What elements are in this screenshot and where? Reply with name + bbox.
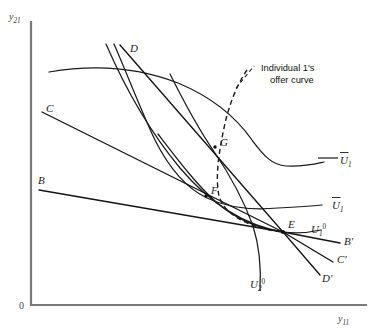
x-axis-label: y11 <box>337 313 349 327</box>
budget-ray-C <box>42 112 283 232</box>
label-group-ubar1: U1 <box>318 153 352 169</box>
ray-label-D-prime: D' <box>321 272 333 284</box>
offer-curve-annotation-line2: offer curve <box>270 75 314 85</box>
point-label-G: G <box>220 136 228 148</box>
point-label-E: E <box>287 218 295 230</box>
offer-curve-figure: y21 y11 0 B C D B' C' D' E F G U1 U1 U10… <box>0 0 373 330</box>
label-u2-zero: U20 <box>250 278 266 293</box>
ray-label-C-prime: C' <box>337 253 347 265</box>
point-marker-F <box>204 194 207 197</box>
point-marker-G <box>213 145 216 148</box>
y-axis-label: y21 <box>8 11 21 25</box>
budget-ray-B <box>39 190 283 232</box>
svg-text:U1: U1 <box>332 199 344 214</box>
ray-label-B: B <box>38 174 45 186</box>
ray-label-D: D <box>129 42 138 54</box>
budget-ray-D <box>120 45 283 232</box>
offer-curve-dashed <box>217 70 283 232</box>
offer-curve-annotation-line1: Individual 1's <box>261 63 315 73</box>
svg-text:U1: U1 <box>340 154 352 169</box>
origin-label: 0 <box>19 300 24 311</box>
ray-label-C: C <box>46 102 54 114</box>
label-u1-zero: U10 <box>311 223 327 238</box>
point-marker-E <box>281 230 285 234</box>
point-label-F: F <box>210 184 218 196</box>
label-group-u1: U1 <box>332 198 344 214</box>
ray-label-B-prime: B' <box>344 235 354 247</box>
indifference-curve-upper-arc <box>106 44 283 232</box>
